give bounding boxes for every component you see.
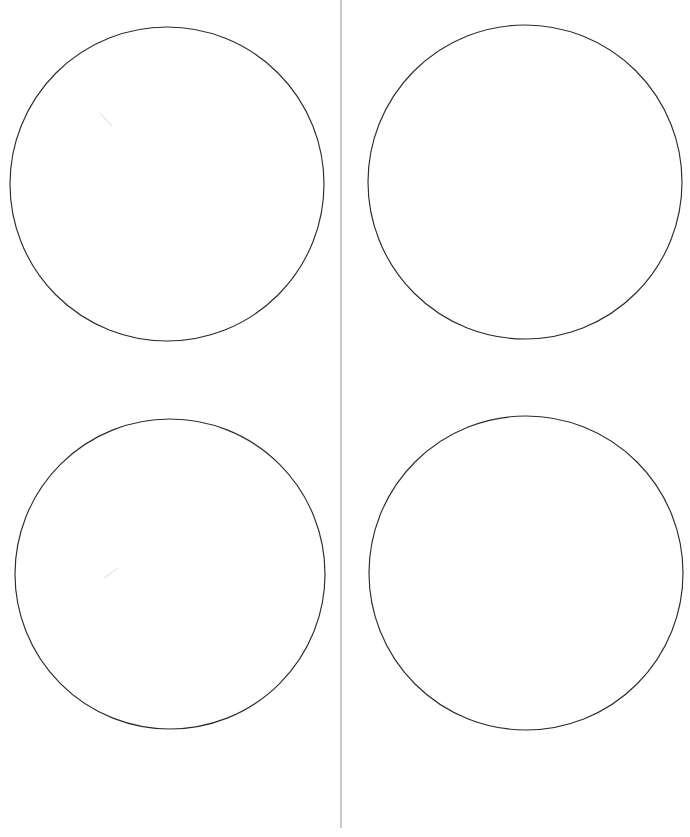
worksheet-page [0,0,690,837]
page-background [0,0,690,837]
worksheet-canvas [0,0,690,837]
